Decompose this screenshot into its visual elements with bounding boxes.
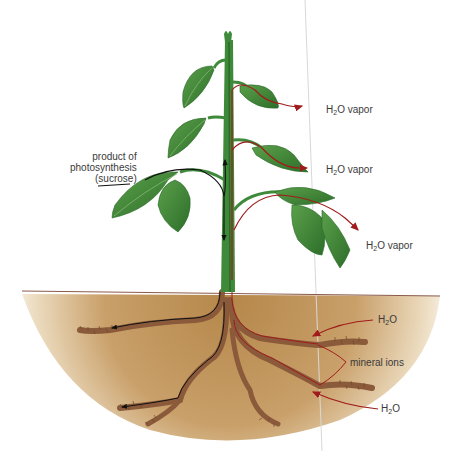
- stem: [221, 31, 235, 292]
- h2o-label-top: H2O: [378, 314, 397, 328]
- label-line: product of: [70, 151, 137, 162]
- h2o-vapor-label-3: H2O vapor: [366, 240, 413, 254]
- h2o-vapor-label-1: H2O vapor: [326, 104, 373, 118]
- leaf: [292, 205, 325, 255]
- sucrose-label: product of photosynthesis (sucrose): [70, 151, 137, 184]
- mineral-ions-label: mineral ions: [350, 357, 404, 368]
- leaf: [275, 187, 335, 205]
- plant-transport-diagram: product of photosynthesis (sucrose) H2O …: [0, 0, 458, 451]
- h2o-vapor-label-2: H2O vapor: [326, 164, 373, 178]
- label-line: (sucrose): [70, 173, 137, 184]
- h2o-label-bottom: H2O: [381, 403, 400, 417]
- label-line: photosynthesis: [70, 162, 137, 173]
- leaf: [240, 85, 278, 108]
- apical-bud: [224, 31, 232, 42]
- diagram-canvas: [0, 0, 458, 451]
